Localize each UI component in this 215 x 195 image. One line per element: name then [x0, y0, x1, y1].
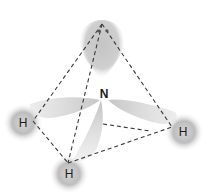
nitrogen-label: N	[100, 87, 109, 101]
lone-pair-lobe	[80, 20, 124, 82]
ammonia-diagram: N H H H	[0, 0, 215, 195]
hydrogen-label-bottom: H	[65, 167, 74, 181]
edge-center-right	[103, 124, 150, 131]
hydrogen-label-left: H	[19, 116, 28, 130]
hydrogen-label-right: H	[179, 125, 188, 139]
bond-lobe-right	[108, 100, 177, 124]
